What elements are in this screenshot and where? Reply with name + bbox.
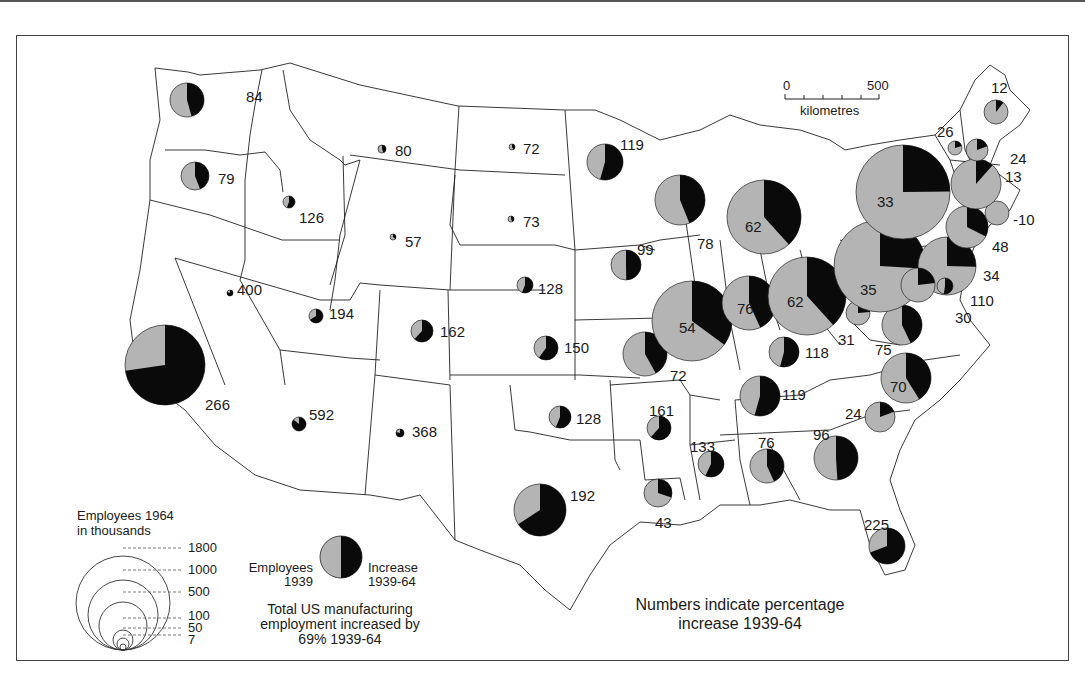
state-pie-arkansas xyxy=(647,416,671,440)
pct-label-south-carolina: 24 xyxy=(845,405,862,422)
legend-increase-label: Increase xyxy=(368,560,418,575)
pct-label-new-york: 33 xyxy=(877,193,894,210)
size-value-7: 7 xyxy=(188,632,195,647)
pct-label-illinois: 54 xyxy=(679,319,696,336)
state-pie-kansas xyxy=(534,336,558,360)
pct-label-south-dakota: 73 xyxy=(523,213,540,230)
pct-label-indiana: 76 xyxy=(737,300,754,317)
pct-label-maine: 12 xyxy=(991,79,1008,96)
state-pie-wisconsin xyxy=(655,175,705,225)
pct-label-louisiana: 43 xyxy=(655,514,672,531)
state-pie-nevada xyxy=(227,290,233,296)
state-pie-tennessee xyxy=(740,376,780,416)
size-value-500: 500 xyxy=(188,584,210,599)
us-map: 8479266126400805719416259236872731281501… xyxy=(0,0,1085,697)
pct-label-missouri: 72 xyxy=(670,367,687,384)
pct-label-maryland: 30 xyxy=(955,309,972,326)
pct-label-texas: 192 xyxy=(570,487,595,504)
state-pie-utah xyxy=(309,309,323,323)
pct-label-nevada: 400 xyxy=(237,281,262,298)
state-pie-montana xyxy=(378,145,386,153)
pct-label-california: 266 xyxy=(205,396,230,413)
pct-label-utah: 194 xyxy=(329,305,354,322)
size-legend: Employees 1964 in thousands 1800 1000 50… xyxy=(76,508,217,650)
pct-label-colorado: 162 xyxy=(440,323,465,340)
total-note-line1: Total US manufacturing xyxy=(267,601,413,617)
pct-label-oregon: 79 xyxy=(218,170,235,187)
pct-label-wisconsin: 78 xyxy=(697,235,714,252)
size-legend-leaders xyxy=(123,548,182,635)
pct-label-washington: 84 xyxy=(246,88,263,105)
pct-label-new-jersey: 34 xyxy=(983,267,1000,284)
scale-start-label: 0 xyxy=(783,78,790,93)
state-pie-connecticut xyxy=(946,206,988,248)
pct-label-michigan: 62 xyxy=(745,218,762,235)
pie-legend: Employees 1939 Increase 1939-64 Total US… xyxy=(249,536,420,647)
legend-increase-period: 1939-64 xyxy=(368,574,416,589)
size-value-1000: 1000 xyxy=(188,562,217,577)
state-pie-arizona xyxy=(292,417,306,431)
pct-label-georgia: 96 xyxy=(813,426,830,443)
pct-label-west-virginia: 31 xyxy=(838,331,855,348)
state-pie-delaware xyxy=(937,278,953,294)
pct-label-new-hampshire: 24 xyxy=(1010,150,1027,167)
state-pie-new-york xyxy=(856,145,950,239)
pct-label-idaho: 126 xyxy=(299,209,324,226)
note-line1: Numbers indicate percentage xyxy=(635,596,844,613)
state-pie-new-mexico xyxy=(396,429,404,437)
state-pie-south-dakota xyxy=(508,216,514,222)
state-pie-washington xyxy=(170,83,204,117)
pct-label-delaware: 110 xyxy=(970,292,994,309)
state-pie-nebraska xyxy=(517,277,533,293)
scale-end-label: 500 xyxy=(867,78,889,93)
pct-label-kansas: 150 xyxy=(564,339,589,356)
pct-label-vermont: 26 xyxy=(937,123,954,140)
state-pie-symbols xyxy=(125,83,1009,564)
pct-label-mississippi: 133 xyxy=(690,438,715,455)
size-legend-title: Employees 1964 xyxy=(77,508,174,523)
total-note-line2: employment increased by xyxy=(260,616,420,632)
total-note-line3: 69% 1939-64 xyxy=(298,631,382,647)
state-pie-wyoming xyxy=(390,234,396,240)
pct-label-alabama: 76 xyxy=(758,434,775,451)
note-line2: increase 1939-64 xyxy=(678,615,802,632)
state-pie-oregon xyxy=(181,162,209,190)
pct-label-wyoming: 57 xyxy=(405,233,422,250)
legend-employees-label: Employees xyxy=(249,560,314,575)
state-pie-michigan xyxy=(727,180,801,254)
state-pie-kentucky xyxy=(769,337,799,367)
state-pie-south-carolina xyxy=(865,402,895,432)
pct-label-kentucky: 118 xyxy=(805,344,829,361)
state-pie-texas xyxy=(514,484,566,536)
pct-label-massachusetts: 13 xyxy=(1005,168,1022,185)
state-pie-north-dakota xyxy=(509,144,515,150)
pct-label-iowa: 99 xyxy=(637,241,654,258)
size-value-1800: 1800 xyxy=(188,540,217,555)
pct-label-ohio: 62 xyxy=(787,293,804,310)
pct-label-florida: 225 xyxy=(864,516,889,533)
legend-employees-year: 1939 xyxy=(284,574,313,589)
pct-label-virginia: 75 xyxy=(875,341,892,358)
pct-label-pennsylvania: 35 xyxy=(860,281,877,298)
map-note: Numbers indicate percentage increase 193… xyxy=(635,596,844,632)
pct-label-minnesota: 119 xyxy=(620,136,644,153)
state-pie-colorado xyxy=(411,320,433,342)
pct-label-nebraska: 128 xyxy=(538,280,563,297)
pct-label-north-dakota: 72 xyxy=(523,140,540,157)
pct-label-arkansas: 161 xyxy=(649,402,674,419)
state-pie-maryland xyxy=(901,268,935,302)
state-pie-minnesota xyxy=(587,144,623,180)
pct-label-north-carolina: 70 xyxy=(890,378,907,395)
state-pie-louisiana xyxy=(644,479,672,507)
state-pie-oklahoma xyxy=(549,406,571,428)
pct-label-tennessee: 119 xyxy=(782,386,806,403)
pct-label-arizona: 592 xyxy=(309,406,334,423)
legend-pie-increase xyxy=(341,536,362,578)
pct-label-montana: 80 xyxy=(395,142,412,159)
state-pie-idaho xyxy=(283,196,295,208)
scale-bar: 0 500 kilometres xyxy=(783,78,889,118)
pct-label-oklahoma: 128 xyxy=(576,410,601,427)
state-pie-florida xyxy=(869,528,905,564)
pct-label-rhode-island: -10 xyxy=(1013,211,1035,228)
size-legend-subtitle: in thousands xyxy=(77,523,151,538)
